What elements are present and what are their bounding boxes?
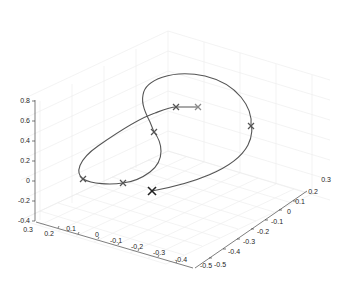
x-tick: -0.2: [131, 243, 143, 250]
z-tick: 0.2: [20, 157, 30, 164]
3d-line-plot: 0.8 0.6 0.4 0.2 0 -0.2 -0.4 0.3 0.2 0.1 …: [0, 0, 350, 284]
x-tick: -0.1: [110, 237, 122, 244]
y-tick: 0.3: [321, 176, 331, 183]
y-tick: 0.1: [295, 198, 305, 205]
z-tick: 0: [26, 177, 30, 184]
x-tick: 0.3: [23, 226, 33, 233]
y-tick-labels: -0.5 -0.4 -0.3 -0.2 -0.1 0 0.1 0.2 0.3: [214, 176, 331, 268]
y-tick: -0.4: [228, 248, 240, 255]
x-tick: -0.4: [175, 256, 187, 263]
y-tick: -0.5: [214, 261, 226, 268]
x-tick: 0.2: [44, 230, 54, 237]
z-tick: -0.2: [18, 197, 30, 204]
z-tick: -0.4: [18, 217, 30, 224]
y-tick: -0.2: [257, 228, 269, 235]
y-tick: -0.3: [243, 238, 255, 245]
y-tick: 0: [287, 208, 291, 215]
z-tick: 0.4: [20, 137, 30, 144]
y-tick: -0.1: [271, 218, 283, 225]
y-tick: 0.2: [308, 188, 318, 195]
z-tick: 0.6: [20, 117, 30, 124]
y-axis-line: [195, 191, 307, 268]
x-tick: 0: [95, 231, 99, 238]
x-axis-line: [36, 222, 193, 268]
marker: [151, 129, 157, 135]
marker: [80, 176, 86, 182]
x-tick: -0.3: [153, 249, 165, 256]
axes: [32, 100, 307, 268]
x-tick-labels: 0.3 0.2 0.1 0 -0.1 -0.2 -0.3 -0.4 -0.5: [23, 225, 212, 269]
z-tick: 0.8: [20, 97, 30, 104]
x-tick: 0.1: [66, 225, 76, 232]
z-tick-labels: 0.8 0.6 0.4 0.2 0 -0.2 -0.4: [18, 97, 30, 224]
data-point-markers: [80, 104, 254, 195]
x-tick: -0.5: [200, 262, 212, 269]
